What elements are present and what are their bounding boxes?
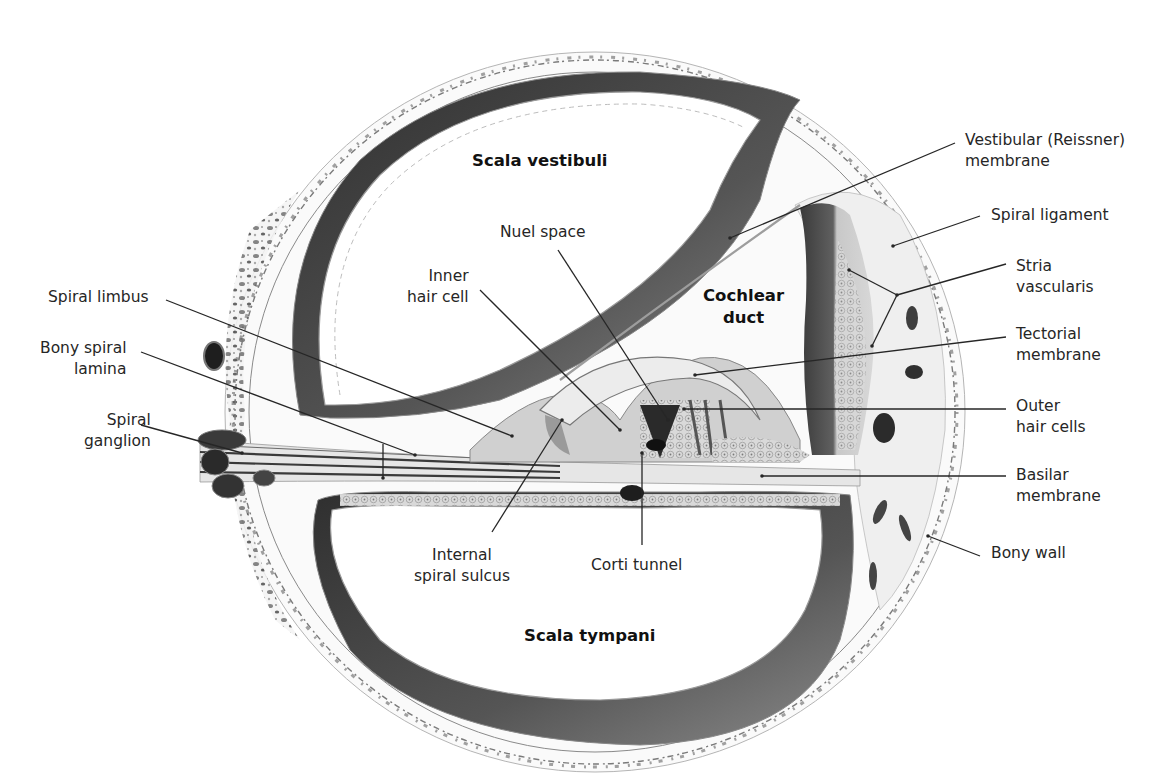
leader-line-spiral-limbus-dot	[510, 434, 514, 438]
leader-line-bony-wall-dot	[926, 534, 930, 538]
leader-line-basilar-membrane-dot	[760, 474, 764, 478]
leader-line-corti-tunnel-dot	[640, 451, 644, 455]
region-label-scala-tympani: Scala tympani	[524, 625, 656, 647]
label-inner-hair-cell: Inner hair cell	[407, 266, 469, 308]
leader-line-tectorial-membrane-dot	[693, 373, 697, 377]
cochlea-illustration	[0, 0, 1161, 784]
label-spiral-limbus: Spiral limbus	[48, 287, 149, 308]
label-vestibular-membrane: Vestibular (Reissner) membrane	[965, 130, 1125, 172]
label-outer-hair-cells: Outer hair cells	[1016, 396, 1086, 438]
leader-line-spiral-ganglion-dot	[240, 451, 244, 455]
leader-line-bony-spiral-lamina-dot	[413, 453, 417, 457]
leader-branch-stria-vascularis-0-dot	[847, 268, 851, 272]
label-spiral-ganglion: Spiral ganglion	[84, 410, 151, 452]
label-nuel-space: Nuel space	[500, 222, 586, 243]
leader-line-inner-hair-cell-dot	[618, 428, 622, 432]
label-basilar-membrane: Basilar membrane	[1016, 465, 1101, 507]
leader-line-spiral-ligament-dot	[891, 244, 895, 248]
label-corti-tunnel: Corti tunnel	[591, 555, 682, 576]
region-label-scala-vestibuli: Scala vestibuli	[472, 150, 608, 172]
label-internal-spiral-sulcus: Internal spiral sulcus	[414, 545, 510, 587]
cochlea-diagram: Scala vestibuli Cochlear duct Scala tymp…	[0, 0, 1161, 784]
label-spiral-ligament: Spiral ligament	[991, 205, 1109, 226]
leader-line-outer-hair-cells-dot	[682, 407, 686, 411]
label-tectorial-membrane: Tectorial membrane	[1016, 324, 1101, 366]
leader-branch-bony-spiral-lamina-0-dot	[381, 476, 385, 480]
leader-line-nuel-space-dot	[666, 418, 670, 422]
label-bony-wall: Bony wall	[991, 543, 1066, 564]
label-bony-spiral-lamina: Bony spiral lamina	[40, 338, 126, 380]
leader-line-internal-spiral-sulcus-dot	[560, 418, 564, 422]
label-stria-vascularis: Stria vascularis	[1016, 256, 1094, 298]
region-label-cochlear-duct: Cochlear duct	[703, 285, 784, 329]
leader-branch-stria-vascularis-1-dot	[870, 344, 874, 348]
leader-line-vestibular-membrane-dot	[728, 236, 732, 240]
